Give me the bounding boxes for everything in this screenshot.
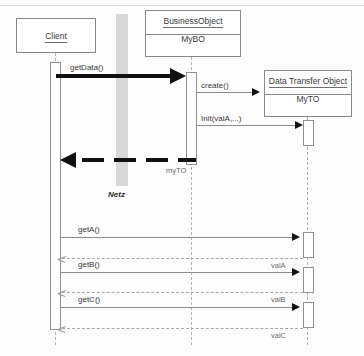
message-label-geta: getA() — [78, 226, 100, 234]
participant-data-transfer-object-divider — [265, 94, 351, 95]
message-label-create: create() — [201, 82, 229, 90]
activation-bar-dto-geta[interactable] — [303, 232, 314, 258]
message-label-init: Init(valA,...) — [201, 115, 241, 123]
message-arrowhead-geta — [292, 233, 300, 241]
message-line-vala — [62, 258, 303, 259]
message-arrowhead-valc — [58, 325, 65, 332]
message-arrowhead-vala — [58, 255, 65, 262]
activation-bar-dto-getb[interactable] — [303, 267, 314, 293]
participant-client[interactable]: Client — [16, 18, 96, 53]
message-label-myto: myTO — [166, 167, 186, 175]
message-label-getb: getB() — [78, 261, 100, 269]
message-arrowhead-getb — [292, 268, 300, 276]
participant-client-title: Client — [17, 19, 95, 41]
message-dash-myto-1 — [82, 158, 104, 162]
message-label-getdata: getData() — [70, 64, 103, 72]
message-arrowhead-create — [252, 88, 260, 96]
network-band-label: Netz — [108, 190, 125, 199]
message-line-getdata — [56, 74, 170, 78]
participant-business-object[interactable]: BusinessObject MyBO — [145, 10, 241, 57]
message-label-valc: valC — [271, 332, 286, 340]
scan-artifact-line — [0, 5, 364, 6]
message-line-create — [196, 92, 252, 93]
message-arrowhead-init — [295, 121, 303, 129]
activation-bar-dto-init[interactable] — [303, 120, 314, 146]
message-label-valb: valB — [271, 296, 286, 304]
sequence-diagram-canvas: Netz Client BusinessObject MyBO Data Tra… — [0, 0, 364, 356]
message-line-getc — [60, 307, 292, 308]
message-line-valc — [62, 328, 303, 329]
message-line-geta — [60, 237, 292, 238]
message-line-init — [196, 125, 295, 126]
participant-business-object-divider — [146, 34, 240, 35]
message-arrowhead-myto — [60, 152, 76, 168]
message-dash-myto-4 — [178, 158, 196, 162]
participant-data-transfer-object[interactable]: Data Transfer Object MyTO — [264, 70, 352, 117]
activation-bar-dto-getc[interactable] — [303, 302, 314, 328]
message-arrowhead-getdata — [170, 68, 186, 84]
message-line-valb — [62, 292, 303, 293]
message-label-getc: getC() — [78, 296, 100, 304]
activation-bar-business-object[interactable] — [186, 72, 197, 165]
message-label-vala: valA — [271, 262, 286, 270]
participant-data-transfer-object-title: Data Transfer Object — [265, 71, 351, 86]
message-arrowhead-valb — [58, 289, 65, 296]
message-line-getb — [60, 272, 292, 273]
message-dash-myto-3 — [146, 158, 168, 162]
message-dash-myto-2 — [114, 158, 136, 162]
participant-business-object-title: BusinessObject — [146, 11, 240, 26]
message-arrowhead-getc — [292, 303, 300, 311]
